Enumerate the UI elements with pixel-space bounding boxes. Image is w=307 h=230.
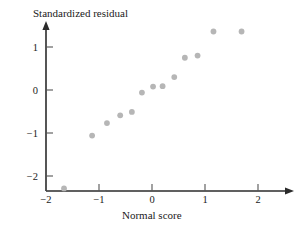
- y-tick-label: −1: [27, 128, 38, 139]
- data-point: [182, 55, 188, 61]
- y-tick-marks: [46, 47, 53, 176]
- data-point: [171, 74, 177, 80]
- data-point: [139, 90, 145, 96]
- data-points-group: [61, 29, 244, 192]
- y-axis-arrow-icon: [42, 21, 49, 30]
- data-point: [129, 109, 135, 115]
- x-axis-arrow-icon: [285, 187, 294, 194]
- x-tick-label: 1: [202, 194, 207, 205]
- data-point: [117, 112, 123, 118]
- data-point: [104, 120, 110, 126]
- data-point: [89, 133, 95, 139]
- y-tick-label: −2: [27, 171, 38, 182]
- data-point: [211, 29, 217, 35]
- x-axis-title: Normal score: [122, 209, 182, 221]
- x-tick-labels: −2−1012: [40, 194, 260, 205]
- y-tick-label: 1: [33, 42, 38, 53]
- data-point: [239, 29, 245, 35]
- data-point: [150, 84, 156, 90]
- x-tick-label: 0: [149, 194, 154, 205]
- y-tick-label: 0: [33, 85, 38, 96]
- x-tick-marks: [46, 184, 258, 191]
- axes-group: [42, 21, 294, 195]
- scatter-plot-figure: Standardized residual −2−1012 10−1−2 Nor…: [0, 0, 307, 230]
- data-point: [160, 83, 166, 89]
- y-tick-labels: 10−1−2: [27, 42, 38, 182]
- x-tick-label: −2: [40, 194, 51, 205]
- y-axis-title: Standardized residual: [33, 7, 128, 19]
- data-point: [195, 53, 201, 59]
- data-point: [61, 186, 67, 192]
- x-tick-label: 2: [255, 194, 260, 205]
- x-tick-label: −1: [93, 194, 104, 205]
- plot-canvas: Standardized residual −2−1012 10−1−2 Nor…: [0, 0, 307, 230]
